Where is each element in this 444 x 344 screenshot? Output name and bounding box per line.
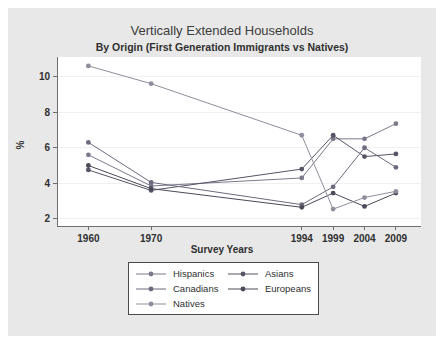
data-point — [149, 180, 154, 185]
data-point — [362, 154, 367, 159]
chart-subtitle: By Origin (First Generation Immigrants v… — [96, 41, 349, 53]
data-point — [394, 165, 399, 170]
data-point — [331, 207, 336, 212]
legend-label: Hispanics — [173, 268, 214, 279]
data-point — [331, 133, 336, 138]
x-tick-label: 2004 — [353, 233, 376, 244]
data-point — [299, 176, 304, 181]
y-axis-title: % — [15, 140, 26, 149]
data-point — [86, 168, 91, 173]
data-point — [362, 204, 367, 209]
x-tick-label: 1970 — [140, 233, 163, 244]
x-tick-label: 1999 — [322, 233, 345, 244]
data-point — [394, 189, 399, 194]
data-point — [86, 140, 91, 145]
legend-swatch-marker — [241, 272, 246, 277]
chart-legend: HispanicsAsiansCanadiansEuropeansNatives — [128, 262, 318, 314]
legend-label: Europeans — [265, 283, 311, 294]
data-point — [299, 205, 304, 210]
legend-label: Natives — [173, 298, 205, 309]
data-point — [86, 152, 91, 157]
x-axis-title: Survey Years — [191, 244, 254, 255]
data-point — [362, 195, 367, 200]
data-point — [149, 81, 154, 86]
data-point — [362, 136, 367, 141]
x-tick-label: 1960 — [77, 233, 100, 244]
data-point — [331, 191, 336, 196]
data-point — [86, 163, 91, 168]
figure-root: 246810 196019701994199920042009 Vertical… — [0, 0, 444, 344]
legend-swatch-marker — [149, 302, 154, 307]
data-point — [299, 133, 304, 138]
legend-swatch-marker — [149, 287, 154, 292]
y-tick-label: 10 — [39, 71, 51, 82]
data-point — [299, 167, 304, 172]
data-point — [394, 152, 399, 157]
line-chart: 246810 196019701994199920042009 Vertical… — [0, 0, 444, 344]
data-point — [362, 145, 367, 150]
legend-label: Canadians — [173, 283, 219, 294]
x-tick-label: 2009 — [385, 233, 408, 244]
y-tick-label: 2 — [44, 213, 50, 224]
x-tick-label: 1994 — [291, 233, 314, 244]
legend-label: Asians — [265, 268, 294, 279]
y-tick-label: 8 — [44, 107, 50, 118]
data-point — [331, 184, 336, 189]
legend-swatch-marker — [241, 287, 246, 292]
y-tick-label: 4 — [44, 178, 50, 189]
y-tick-label: 6 — [44, 142, 50, 153]
plot-area-background — [57, 57, 421, 226]
legend-swatch-marker — [149, 272, 154, 277]
data-point — [394, 121, 399, 126]
data-point — [86, 63, 91, 68]
chart-title: Vertically Extended Households — [131, 23, 314, 38]
data-point — [149, 186, 154, 191]
